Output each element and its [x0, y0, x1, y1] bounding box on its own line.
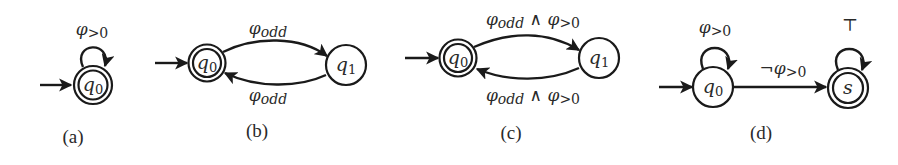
self-loop-edge: [81, 47, 106, 67]
edge-label: φodd: [249, 18, 287, 40]
panel-c: q0 q1 φodd ∧ φ>0 φodd ∧ φ>0 (c): [405, 9, 619, 144]
edge-q0-q1: [223, 40, 327, 56]
caption: (c): [500, 122, 521, 144]
self-loop-edge: [836, 49, 863, 70]
automata-figure: q0 φ>0 (a) q0 q1 φodd φodd (b) q0 q1 φod…: [0, 0, 898, 165]
panel-b: q0 q1 φodd φodd (b): [155, 18, 366, 142]
edge-label: φ>0: [699, 17, 732, 39]
edge-label-top: ⊤: [842, 15, 858, 35]
edge-label: φodd ∧ φ>0: [486, 9, 580, 31]
edge-q0-q1: [474, 35, 579, 50]
self-loop-edge: [701, 48, 729, 69]
edge-label: ¬φ>0: [760, 58, 807, 80]
caption: (b): [246, 120, 268, 142]
caption: (d): [750, 122, 772, 144]
edge-label: φodd ∧ φ>0: [486, 85, 580, 107]
caption: (a): [62, 126, 83, 148]
panel-a: q0 φ>0 (a): [40, 19, 112, 148]
edge-label: φodd: [249, 85, 287, 107]
edge-q1-q0: [225, 73, 326, 85]
state-label: s: [843, 76, 853, 98]
edge-label: φ>0: [76, 19, 109, 41]
panel-d: q0 s φ>0 ¬φ>0 ⊤ (d): [659, 15, 868, 144]
edge-q1-q0: [477, 68, 579, 79]
